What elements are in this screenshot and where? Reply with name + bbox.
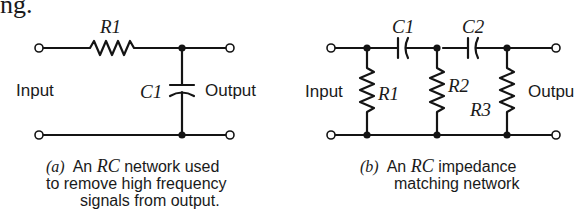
circuit-b-resistor-r2 xyxy=(430,48,444,135)
label-input: Input xyxy=(305,83,343,100)
junction-dot xyxy=(433,131,440,138)
junction-dot xyxy=(433,44,440,51)
label-r3: R3 xyxy=(470,100,491,119)
output-terminal-top xyxy=(552,44,560,52)
output-terminal-bottom xyxy=(552,131,560,139)
junction-dot xyxy=(178,131,185,138)
input-terminal-top xyxy=(327,44,335,52)
output-terminal-top xyxy=(226,44,234,52)
input-terminal-top xyxy=(35,44,43,52)
input-terminal-bottom xyxy=(35,131,43,139)
caption-b: (b)An RC impedance matching network xyxy=(360,158,580,192)
output-terminal-bottom xyxy=(226,131,234,139)
input-terminal-bottom xyxy=(327,131,335,139)
junction-dot xyxy=(503,44,510,51)
circuit-b-capacitor-c1 xyxy=(398,38,408,58)
circuit-a-top-wire xyxy=(43,41,226,55)
caption-b-marker: (b) xyxy=(360,158,379,175)
label-r1: R1 xyxy=(378,84,399,103)
label-c2: C2 xyxy=(462,17,484,36)
label-r1: R1 xyxy=(100,17,121,36)
circuit-b xyxy=(327,38,560,139)
junction-dot xyxy=(363,131,370,138)
label-output: Output xyxy=(205,82,256,99)
label-output: Outpu xyxy=(528,83,574,100)
label-input: Input xyxy=(16,82,54,99)
circuit-b-resistor-r3 xyxy=(500,48,514,135)
label-c1: C1 xyxy=(392,17,414,36)
junction-dot xyxy=(363,44,370,51)
circuit-b-capacitor-c2 xyxy=(468,38,478,58)
junction-dot xyxy=(503,131,510,138)
circuit-b-resistor-r1 xyxy=(360,48,374,135)
circuit-a-capacitor-c1 xyxy=(170,48,194,135)
caption-a: (a)An RC network used to remove high fre… xyxy=(46,158,286,209)
caption-a-marker: (a) xyxy=(46,158,65,175)
junction-dot xyxy=(178,44,185,51)
label-r2: R2 xyxy=(448,76,469,95)
label-c1: C1 xyxy=(140,82,162,101)
